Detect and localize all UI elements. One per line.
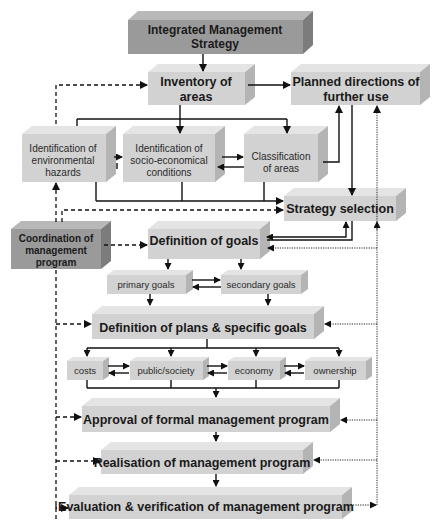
node-integrated-management-strategy: Integrated Management Strategy xyxy=(128,11,313,54)
node-label: of areas xyxy=(263,163,299,174)
node-evaluation: Evaluation & verification of management … xyxy=(58,487,354,519)
node-label: Strategy xyxy=(191,37,239,51)
node-primary-goals: primary goals xyxy=(107,270,193,294)
node-label: Identification of xyxy=(29,143,96,154)
node-label: areas xyxy=(180,90,213,104)
node-label: Definition of plans & specific goals xyxy=(99,321,307,335)
node-label: environmental xyxy=(32,155,95,166)
node-label: Realisation of management program xyxy=(94,456,311,470)
node-classification-of-areas: Classification of areas xyxy=(244,126,328,182)
node-inventory-of-areas: Inventory of areas xyxy=(148,64,255,105)
node-label: Inventory of xyxy=(160,75,232,89)
node-secondary-goals: secondary goals xyxy=(221,270,308,294)
node-economy: economy xyxy=(228,357,286,380)
node-label: public/society xyxy=(137,365,194,376)
node-ownership: ownership xyxy=(305,357,372,380)
node-label: further use xyxy=(323,90,388,104)
node-label: hazards xyxy=(45,167,81,178)
node-label: Coordination of xyxy=(19,233,94,244)
node-label: Classification xyxy=(252,151,311,162)
node-label: ownership xyxy=(313,365,356,376)
node-coordination-of-management-program: Coordination of management program xyxy=(11,221,111,269)
node-label: Planned directions of xyxy=(292,75,420,89)
node-realisation: Realisation of management program xyxy=(94,442,313,474)
node-label: economy xyxy=(235,365,274,376)
node-label: primary goals xyxy=(117,279,174,290)
node-label: Identification of xyxy=(135,143,202,154)
node-public-society: public/society xyxy=(130,357,209,380)
node-label: costs xyxy=(74,365,96,376)
node-environmental-hazards: Identification of environmental hazards xyxy=(22,126,116,182)
node-label: management xyxy=(25,245,87,256)
node-label: secondary goals xyxy=(226,279,295,290)
node-definition-of-goals: Definition of goals xyxy=(148,221,270,259)
node-label: Definition of goals xyxy=(149,234,258,248)
management-flowchart: Integrated Management Strategy Inventory… xyxy=(0,0,442,526)
node-socio-economical-conditions: Identification of socio-economical condi… xyxy=(123,126,225,182)
node-planned-directions: Planned directions of further use xyxy=(291,64,430,105)
node-costs: costs xyxy=(67,357,109,380)
node-approval: Approval of formal management program xyxy=(82,398,340,432)
node-label: socio-economical xyxy=(130,155,207,166)
node-strategy-selection: Strategy selection xyxy=(284,188,406,221)
node-label: Strategy selection xyxy=(286,202,394,216)
node-label: Evaluation & verification of management … xyxy=(58,500,354,514)
node-label: Approval of formal management program xyxy=(83,413,329,427)
node-definition-of-plans: Definition of plans & specific goals xyxy=(92,306,324,339)
node-label: Integrated Management xyxy=(148,23,283,37)
node-label: conditions xyxy=(146,167,191,178)
node-label: program xyxy=(36,257,77,268)
